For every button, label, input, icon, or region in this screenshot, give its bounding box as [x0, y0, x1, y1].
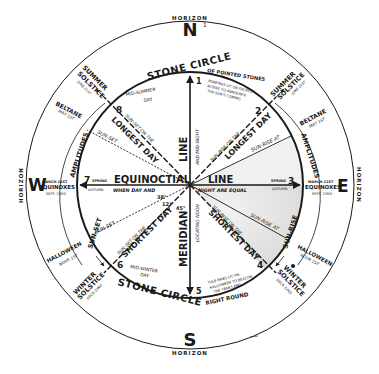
- horizon-top: HORIZON: [172, 15, 208, 21]
- meridian-label: MERIDIAN: [178, 211, 189, 267]
- horizon-right: HORIZON: [356, 167, 362, 203]
- stone-3-autumn: AUTUMN: [272, 187, 288, 191]
- equinoxes-e-2: EQUINOXES: [305, 184, 341, 190]
- stone-6: 6: [117, 260, 123, 270]
- meridian-line-label: LINE: [178, 137, 189, 162]
- equinoctial-sub-right: NIGHT ARE EQUAL: [198, 188, 247, 193]
- equinoxes-w-3: SEPT. 23RD: [46, 192, 66, 196]
- sunset-shortest-2: SHORTEST DAY: [120, 205, 174, 259]
- stone-2: 2: [255, 106, 261, 116]
- stone-circle-diagram: N 1 S W E HORIZON HORIZON HORIZON HORIZO…: [0, 0, 379, 374]
- stone-7-spring: SPRING: [92, 179, 107, 183]
- angle-12: 12°: [162, 201, 172, 207]
- meridian-bottom-sub: LOCATING NOON: [195, 203, 200, 242]
- equinoctial-sub-left: WHEN DAY AND: [113, 188, 155, 193]
- shaded-sector-upper: [190, 138, 303, 185]
- equinoctial-label: EQUINOCTIAL: [114, 174, 191, 185]
- stone-8-note-2: DAY: [143, 96, 153, 103]
- stone-3: 3: [288, 176, 294, 186]
- amplitudes-w: AMPLITUDES: [68, 131, 90, 179]
- stone-4: 4: [257, 260, 263, 270]
- stone-5: 5: [196, 287, 202, 296]
- sunset-w-label: SUN-SET: [86, 217, 104, 250]
- equinoxes-w-2: EQUINOXES: [39, 184, 75, 190]
- stone-circle-top-label: STONE CIRCLE: [146, 50, 233, 82]
- stone-7-autumn: AUTUMN: [88, 188, 104, 192]
- equinoctial-line-label: LINE: [208, 174, 233, 185]
- stone-7: 7: [84, 175, 90, 185]
- angle-38: 38°: [157, 194, 167, 200]
- north-marker: 1: [203, 21, 207, 28]
- north-label: N: [182, 19, 197, 40]
- meridian-top-sub: AND MID-NIGHT: [195, 128, 200, 166]
- stone-1: 1: [196, 77, 202, 86]
- stone-3-spring: SPRING: [271, 179, 286, 183]
- equinoxes-e-3: SEPT. 23RD: [312, 192, 332, 196]
- horizon-left: HORIZON: [18, 167, 24, 203]
- horizon-bottom: HORIZON: [172, 350, 208, 356]
- shaded-sector: [190, 185, 303, 269]
- stone-8: 8: [116, 105, 122, 115]
- angle-45: 45°: [176, 205, 186, 211]
- stone-circle-bottom-sublabel: RIGHT ROUND: [205, 291, 249, 306]
- south-label: S: [184, 329, 197, 350]
- stone-6-note-2: DAY: [140, 272, 150, 279]
